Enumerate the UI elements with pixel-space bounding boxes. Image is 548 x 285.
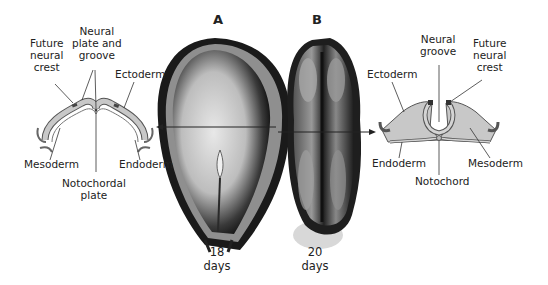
panel-label-a: A [213,12,223,27]
label-right-endoderm: Endoderm [372,157,426,169]
label-left-endoderm: Endoderm [119,158,173,170]
panel-label-b: B [312,12,322,27]
embryo-a-illustration [158,38,290,252]
label-right-future-neural-crest: Future neural crest [473,37,506,73]
age-b-unit: days [298,259,332,273]
label-left-ectoderm: Ectoderm [115,68,165,80]
label-notochordal-plate: Notochordal plate [62,177,126,201]
label-right-mesoderm: Mesoderm [468,157,523,169]
label-notochord: Notochord [415,175,469,187]
embryo-b-illustration [287,38,361,249]
age-b-number: 20 [298,245,332,259]
age-label-b: 20 days [298,245,332,273]
age-a-unit: days [200,259,234,273]
label-right-ectoderm: Ectoderm [367,68,417,80]
label-neural-groove: Neural groove [420,33,456,57]
label-neural-plate-and-groove: Neural plate and groove [72,25,122,61]
age-a-number: 18 [200,245,234,259]
left-cross-section [37,70,152,172]
label-left-future-neural-crest: Future neural crest [30,37,63,73]
label-left-mesoderm: Mesoderm [24,158,79,170]
age-label-a: 18 days [200,245,234,273]
